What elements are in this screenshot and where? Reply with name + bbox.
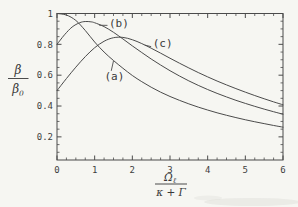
- y-tick-label: 0.8: [37, 40, 53, 50]
- y-tick-label: 0.6: [37, 70, 53, 80]
- scanned-figure-page: 01234560.20.40.60.81 (a)(b)(c) β β0 Ωℓ κ…: [0, 0, 298, 207]
- beta-vs-omega-chart: 01234560.20.40.60.81 (a)(b)(c) β β0 Ωℓ κ…: [0, 0, 298, 207]
- scan-smudge: [194, 196, 222, 201]
- y-tick-label: 1: [48, 9, 53, 19]
- y-tick-label: 0.2: [37, 132, 53, 142]
- x-tick-label: 2: [130, 165, 135, 175]
- curve-label-b: (b): [109, 17, 129, 30]
- x-axis-denominator: κ + Γ: [155, 186, 186, 198]
- x-tick-label: 6: [280, 165, 285, 175]
- curve-label-c: (c): [153, 37, 173, 50]
- y-axis-numerator: β: [14, 63, 22, 77]
- x-tick-label: 1: [92, 165, 97, 175]
- y-tick-label: 0.4: [37, 101, 53, 111]
- x-tick-label: 0: [54, 165, 59, 175]
- x-tick-label: 4: [205, 165, 210, 175]
- curve-label-a: (a): [104, 70, 124, 83]
- x-tick-label: 5: [243, 165, 248, 175]
